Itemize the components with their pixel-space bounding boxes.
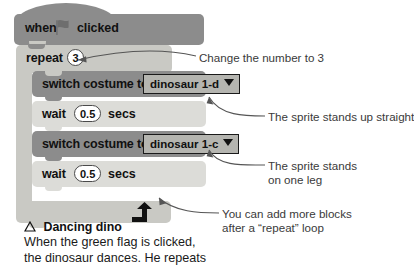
wait-label-1: wait — [42, 107, 66, 121]
figure-caption: Dancing dino When the green flag is clic… — [24, 219, 254, 266]
chevron-down-icon-1 — [224, 79, 234, 86]
costume-dropdown-value-2: dinosaur 1-c — [150, 138, 218, 150]
tutorial-figure: when clicked repeat 3 — [0, 0, 414, 268]
wait-block-1[interactable]: wait 0.5 secs — [32, 101, 206, 127]
wait-duration-input-2[interactable]: 0.5 — [74, 165, 101, 182]
repeat-inner-notch — [45, 71, 62, 76]
wait-block-2[interactable]: wait 0.5 secs — [32, 161, 206, 187]
repeat-block-header: repeat 3 — [16, 45, 172, 73]
caption-body: When the green flag is clicked, the dino… — [24, 235, 254, 266]
block-notch — [45, 186, 62, 191]
repeat-left-arm — [16, 71, 32, 203]
switch-costume-block-2[interactable]: switch costume to dinosaur 1-c — [32, 131, 206, 157]
caption-heading-row: Dancing dino — [24, 219, 254, 235]
repeat-label: repeat — [26, 51, 63, 65]
wait-label-2: wait — [42, 167, 66, 181]
repeat-times-input[interactable]: 3 — [67, 49, 84, 66]
switch-costume-label-1: switch costume to — [42, 77, 149, 91]
costume-dropdown-2[interactable]: dinosaur 1-c — [143, 134, 239, 154]
chevron-down-icon-2 — [223, 139, 233, 146]
wait-unit-2: secs — [108, 167, 136, 181]
triangle-bullet-icon — [24, 220, 43, 234]
repeat-block[interactable]: repeat 3 switch costume to dinosaur 1-d — [16, 45, 206, 220]
annotation-stands-one-leg: The sprite stands on one leg — [268, 159, 357, 186]
hat-label-when: when — [25, 21, 57, 35]
annotation-stands-up-straight: The sprite stands up straight — [268, 110, 414, 124]
wait-unit-1: secs — [108, 107, 136, 121]
green-flag-icon — [54, 19, 72, 36]
switch-costume-label-2: switch costume to — [42, 137, 149, 151]
costume-dropdown-value-1: dinosaur 1-d — [150, 78, 219, 90]
wait-duration-input-1[interactable]: 0.5 — [74, 105, 101, 122]
inner-stack: switch costume to dinosaur 1-d wait 0.5 … — [32, 71, 206, 187]
annotation-change-number: Change the number to 3 — [199, 51, 324, 65]
hat-notch — [28, 44, 45, 49]
hat-label-clicked: clicked — [77, 21, 119, 35]
costume-dropdown-1[interactable]: dinosaur 1-d — [143, 74, 240, 94]
scratch-script: when clicked repeat 3 — [14, 14, 204, 45]
caption-heading: Dancing dino — [43, 220, 121, 234]
